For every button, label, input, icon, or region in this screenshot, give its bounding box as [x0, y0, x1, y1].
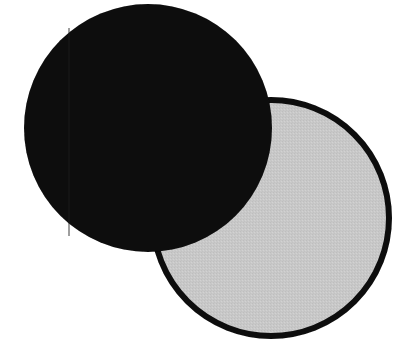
- black-disc: [24, 4, 272, 252]
- overlapping-circles-figure: Two overlapping discs A solid black disc…: [0, 0, 407, 347]
- black-disc-group: [24, 4, 272, 252]
- figure-canvas: Two overlapping discs A solid black disc…: [0, 0, 407, 347]
